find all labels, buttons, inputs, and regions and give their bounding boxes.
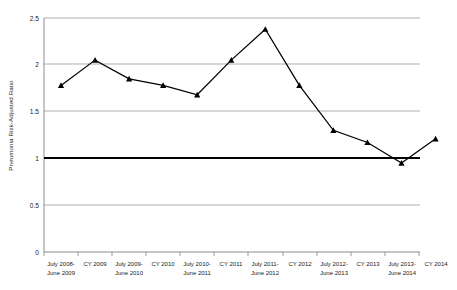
x-tick-label-2-line2: June 2010 [115,270,144,276]
x-tick-label-5-line1: CY 2011 [220,261,243,267]
x-tick-marks [44,252,419,256]
x-tick-label-8-line2: June 2013 [320,270,349,276]
series-line-pneumonia-ratio [61,29,436,163]
pneumonia-ratio-line-chart: Pneumonia Risk-Adjusted Ratio 2.5 2 1.5 … [0,0,457,290]
x-tick-label-8-line1: July 2012- [320,261,348,267]
x-tick-label-10-line1: July 2013- [388,261,416,267]
chart-canvas: 2.5 2 1.5 1 0.5 0 July 2008- June 2009 C… [0,0,457,290]
x-tick-label-7-line1: CY 2012 [288,261,312,267]
y-tick-labels: 2.5 2 1.5 1 0.5 0 [30,15,40,256]
x-tick-label-3-line1: CY 2010 [151,261,175,267]
series-markers [58,26,439,166]
y-tick-label-1.0: 1 [35,155,39,162]
gridlines [44,18,420,205]
y-tick-label-2.5: 2.5 [30,15,39,22]
x-tick-label-0-line2: June 2009 [47,270,76,276]
x-tick-labels: July 2008- June 2009 CY 2009 July 2009- … [47,261,448,276]
x-tick-label-0-line1: July 2008- [47,261,75,267]
data-point-marker [262,26,268,32]
y-tick-label-2.0: 2 [35,61,39,68]
y-tick-label-0.5: 0.5 [30,202,39,209]
x-tick-label-10-line2: June 2014 [388,270,417,276]
y-tick-label-1.5: 1.5 [30,108,39,115]
axes [44,18,420,252]
data-point-marker [92,57,98,63]
x-tick-label-6-line1: July 2011- [251,261,278,267]
x-tick-label-4-line2: June 2011 [183,270,211,276]
x-tick-label-2-line1: July 2009- [115,261,143,267]
x-tick-label-11-line1: CY 2014 [424,261,448,267]
data-point-marker [432,136,438,142]
x-tick-label-4-line1: July 2010- [183,261,211,267]
x-tick-label-1-line1: CY 2009 [83,261,107,267]
x-tick-label-9-line1: CY 2013 [356,261,380,267]
x-tick-label-6-line2: June 2012 [251,270,280,276]
data-point-marker [296,82,302,88]
data-point-marker [126,76,132,82]
y-tick-label-0: 0 [35,249,39,256]
